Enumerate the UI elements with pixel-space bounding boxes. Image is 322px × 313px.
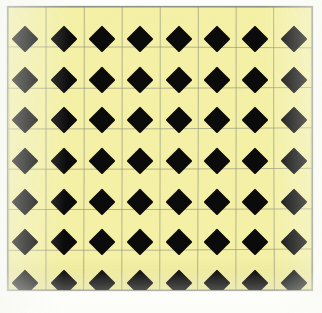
scan-canvas	[0, 0, 322, 313]
pattern-plate	[7, 6, 313, 291]
yellow-tile-field	[8, 7, 312, 290]
